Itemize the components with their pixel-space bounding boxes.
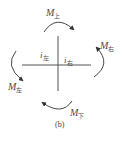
top-moment-arrow xyxy=(44,22,73,32)
bottom-moment-arrow xyxy=(43,101,72,109)
stiffness-label-left: i左 xyxy=(40,50,49,63)
stiffness-label-right: i右 xyxy=(64,55,73,68)
figure-caption: (b) xyxy=(55,121,64,129)
moment-label-top: M上 xyxy=(46,8,60,21)
moment-subscript: 右 xyxy=(108,46,114,52)
stiffness-subscript: 左 xyxy=(43,55,49,61)
moment-label-left: M左 xyxy=(8,82,22,95)
moment-label-right: M右 xyxy=(100,41,114,54)
moment-subscript: 左 xyxy=(16,87,22,93)
moment-subscript: 下 xyxy=(78,113,84,119)
stiffness-subscript: 右 xyxy=(67,60,73,66)
left-moment-arrow xyxy=(11,51,22,80)
moment-label-bottom: M下 xyxy=(70,108,84,121)
moment-subscript: 上 xyxy=(54,13,60,19)
